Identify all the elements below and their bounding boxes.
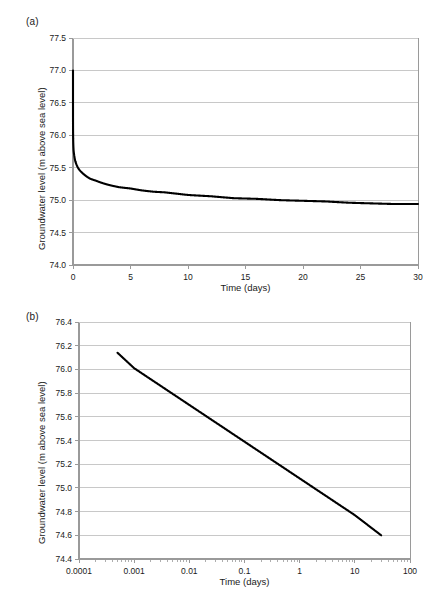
svg-text:0.0001: 0.0001 bbox=[66, 566, 92, 576]
svg-text:76.4: 76.4 bbox=[55, 317, 72, 327]
svg-text:10: 10 bbox=[350, 566, 360, 576]
svg-text:75.0: 75.0 bbox=[49, 195, 66, 205]
panel-a-plot: 74.074.575.075.576.076.577.077.505101520… bbox=[0, 0, 437, 302]
panel-b-plot: 74.474.674.875.075.275.475.675.876.076.2… bbox=[0, 302, 437, 604]
svg-text:0: 0 bbox=[71, 272, 76, 282]
svg-text:76.2: 76.2 bbox=[55, 341, 72, 351]
figure-groundwater-drawdown: (a) Groundwater level (m above sea level… bbox=[0, 0, 437, 604]
svg-text:74.6: 74.6 bbox=[55, 530, 72, 540]
svg-text:74.4: 74.4 bbox=[55, 554, 72, 564]
svg-text:75.0: 75.0 bbox=[55, 483, 72, 493]
svg-text:77.0: 77.0 bbox=[49, 65, 66, 75]
svg-text:76.0: 76.0 bbox=[49, 130, 66, 140]
svg-text:0.1: 0.1 bbox=[239, 566, 251, 576]
svg-text:74.0: 74.0 bbox=[49, 260, 66, 270]
svg-text:15: 15 bbox=[241, 272, 251, 282]
svg-text:20: 20 bbox=[298, 272, 308, 282]
svg-text:75.6: 75.6 bbox=[55, 412, 72, 422]
svg-text:74.5: 74.5 bbox=[49, 228, 66, 238]
svg-text:100: 100 bbox=[403, 566, 417, 576]
svg-text:5: 5 bbox=[128, 272, 133, 282]
svg-text:76.5: 76.5 bbox=[49, 98, 66, 108]
panel-b: (b) Groundwater level (m above sea level… bbox=[0, 302, 437, 604]
svg-text:75.5: 75.5 bbox=[49, 163, 66, 173]
svg-text:0.01: 0.01 bbox=[181, 566, 198, 576]
svg-text:30: 30 bbox=[413, 272, 423, 282]
svg-text:10: 10 bbox=[183, 272, 193, 282]
svg-text:76.0: 76.0 bbox=[55, 364, 72, 374]
svg-text:1: 1 bbox=[297, 566, 302, 576]
svg-text:75.2: 75.2 bbox=[55, 459, 72, 469]
svg-text:0.001: 0.001 bbox=[124, 566, 146, 576]
panel-a: (a) Groundwater level (m above sea level… bbox=[0, 0, 437, 302]
svg-text:75.4: 75.4 bbox=[55, 436, 72, 446]
svg-text:74.8: 74.8 bbox=[55, 507, 72, 517]
svg-text:77.5: 77.5 bbox=[49, 33, 66, 43]
svg-text:75.8: 75.8 bbox=[55, 388, 72, 398]
svg-text:25: 25 bbox=[356, 272, 366, 282]
